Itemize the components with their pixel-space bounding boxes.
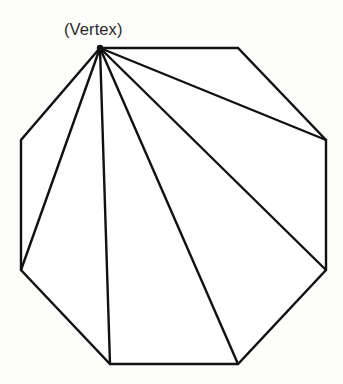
apex-vertex-dot [97, 45, 103, 51]
octagon-diagram-svg [0, 0, 343, 384]
vertex-label: (Vertex) [64, 19, 123, 39]
geometry-figure: (Vertex) [0, 0, 343, 384]
